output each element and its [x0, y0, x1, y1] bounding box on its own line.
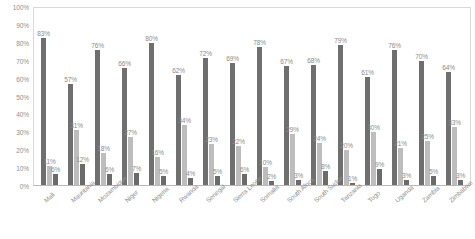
y-axis-tick: 20%: [16, 147, 29, 154]
bar-slot: 67%: [284, 8, 289, 185]
bar-value-label: 5%: [159, 168, 168, 176]
bar[interactable]: 25%: [425, 141, 430, 185]
y-axis-tick: 90%: [16, 21, 29, 28]
bar-slot: 64%: [446, 8, 451, 185]
bar-group: 57%31%12%: [63, 8, 90, 185]
bar-value-label: 6%: [240, 166, 249, 174]
bar-slot: 68%: [311, 8, 316, 185]
bar[interactable]: 9%: [377, 169, 382, 185]
bar[interactable]: 76%: [392, 50, 397, 185]
bar-slot: 6%: [107, 8, 112, 185]
x-axis-cell: Mozambique: [90, 187, 117, 239]
x-axis-cell: Niger: [117, 187, 144, 239]
x-axis: MaliMauritaniaMozambiqueNigerNigeriaRwan…: [34, 187, 470, 239]
bar-slot: 1%: [350, 8, 355, 185]
x-axis-tick-label: Uganda: [393, 184, 415, 205]
bar[interactable]: 6%: [53, 174, 58, 185]
bar-group: 61%30%9%: [360, 8, 387, 185]
bar[interactable]: 79%: [338, 45, 343, 185]
x-axis-cell: Somalia: [252, 187, 279, 239]
bar-slot: 80%: [149, 8, 154, 185]
x-axis-cell: Senegal: [198, 187, 225, 239]
bar-slot: 6%: [53, 8, 58, 185]
y-axis-tick: 50%: [16, 93, 29, 100]
bar[interactable]: 72%: [203, 58, 208, 185]
bar-value-label: 7%: [132, 165, 141, 173]
bar[interactable]: 30%: [371, 132, 376, 185]
y-axis-tick: 40%: [16, 111, 29, 118]
bar-value-label: 3%: [294, 172, 303, 180]
bar-slot: 7%: [134, 8, 139, 185]
bar[interactable]: 66%: [122, 68, 127, 185]
bar-slot: 30%: [371, 8, 376, 185]
bar-slot: 3%: [404, 8, 409, 185]
x-axis-cell: Mali: [36, 187, 63, 239]
bar-value-label: 5%: [429, 168, 438, 176]
x-axis-tick-label: Nigeria: [150, 185, 170, 204]
bar-group: 72%23%5%: [198, 8, 225, 185]
bar[interactable]: 80%: [149, 43, 154, 185]
bar-slot: 8%: [323, 8, 328, 185]
x-axis-cell: Mauritania: [63, 187, 90, 239]
bar-group: 76%21%3%: [387, 8, 414, 185]
bar-slot: 10%: [263, 8, 268, 185]
bar-slot: 6%: [242, 8, 247, 185]
bar[interactable]: 76%: [95, 50, 100, 185]
bar-slot: 27%: [128, 8, 133, 185]
bar[interactable]: 12%: [80, 164, 85, 185]
bar[interactable]: 68%: [311, 65, 316, 185]
bar-slot: 2%: [269, 8, 274, 185]
x-axis-cell: South Sudan: [306, 187, 333, 239]
x-axis-tick-label: Niger: [123, 188, 140, 204]
bar[interactable]: 5%: [161, 176, 166, 185]
bar-slot: 76%: [95, 8, 100, 185]
bar[interactable]: 23%: [209, 144, 214, 185]
bar-value-label: 8%: [321, 163, 330, 171]
x-axis-tick-label: Zambia: [420, 184, 441, 204]
bar-value-label: 2%: [267, 173, 276, 181]
bar-slot: 5%: [215, 8, 220, 185]
bar-slot: 29%: [290, 8, 295, 185]
bar-value-label: 5%: [213, 168, 222, 176]
bar-value-label: 9%: [375, 161, 384, 169]
bar-slot: 21%: [398, 8, 403, 185]
bar-slot: 5%: [161, 8, 166, 185]
x-axis-cell: Togo: [360, 187, 387, 239]
bar-slot: 62%: [176, 8, 181, 185]
bar-value-label: 6%: [105, 166, 114, 174]
bar-group: 80%16%5%: [144, 8, 171, 185]
x-axis-cell: South Africa: [279, 187, 306, 239]
bar-slot: 72%: [203, 8, 208, 185]
bar-group: 66%27%7%: [117, 8, 144, 185]
bar[interactable]: 70%: [419, 61, 424, 185]
bar-value-label: 3%: [402, 172, 411, 180]
bar-slot: 11%: [47, 8, 52, 185]
bar-slot: 79%: [338, 8, 343, 185]
bar-slot: 4%: [188, 8, 193, 185]
bar-chart: 100%90%80%70%60%50%40%30%20%10%0% 83%11%…: [0, 0, 475, 239]
x-axis-tick-label: Rwanda: [177, 183, 200, 205]
bar-slot: 61%: [365, 8, 370, 185]
bar-group: 68%24%8%: [306, 8, 333, 185]
bar[interactable]: 8%: [323, 171, 328, 185]
bar-slot: 70%: [419, 8, 424, 185]
bar-slot: 76%: [392, 8, 397, 185]
bar[interactable]: 62%: [176, 75, 181, 185]
bar-group: 62%34%4%: [171, 8, 198, 185]
bar[interactable]: 27%: [128, 137, 133, 185]
bar-group: 67%29%3%: [279, 8, 306, 185]
bar-slot: 34%: [182, 8, 187, 185]
x-axis-cell: Tanzania: [333, 187, 360, 239]
bar[interactable]: 69%: [230, 63, 235, 185]
bar-slot: 24%: [317, 8, 322, 185]
y-axis-tick: 100%: [13, 4, 29, 11]
bar[interactable]: 57%: [68, 84, 73, 185]
bar-groups: 83%11%6%57%31%12%76%18%6%66%27%7%80%16%5…: [34, 8, 470, 185]
bar-slot: 12%: [80, 8, 85, 185]
bar[interactable]: 7%: [134, 173, 139, 185]
y-axis-tick: 30%: [16, 129, 29, 136]
bar[interactable]: 64%: [446, 72, 451, 185]
bar-slot: 16%: [155, 8, 160, 185]
bar-group: 64%33%3%: [441, 8, 468, 185]
x-axis-cell: Sierra Leone: [225, 187, 252, 239]
